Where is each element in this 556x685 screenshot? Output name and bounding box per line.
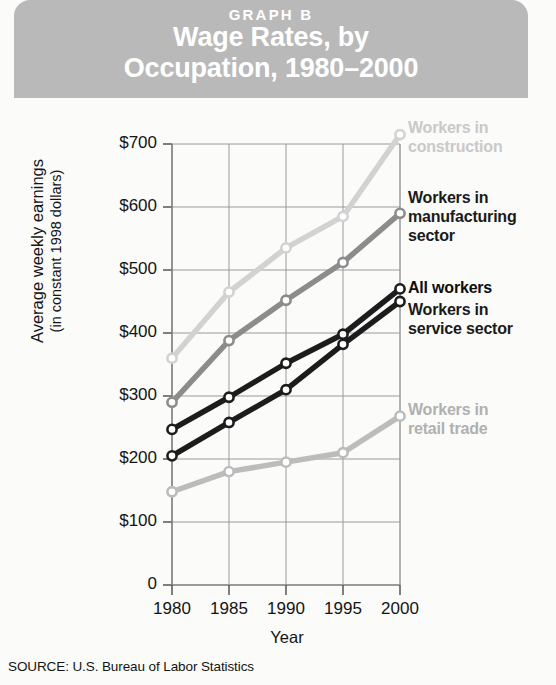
legend-item-service-sector: Workers in service sector <box>408 300 513 338</box>
legend-item-manufacturing: Workers in manufacturing sector <box>408 188 517 245</box>
data-point-marker <box>167 398 176 407</box>
legend-construction-line2: construction <box>408 138 503 155</box>
x-axis-tick-label: 1990 <box>254 599 318 619</box>
y-axis-title-line2: (in constant 1998 dollars) <box>47 86 66 416</box>
legend-retail-line2: retail trade <box>408 420 487 437</box>
y-axis-tick-label: $700 <box>75 133 157 153</box>
x-axis-tick-label: 2000 <box>368 599 432 619</box>
legend-item-retail-trade: Workers in retail trade <box>408 400 488 438</box>
legend-retail-line1: Workers in <box>408 401 488 418</box>
y-axis-tick-label: $400 <box>75 322 157 342</box>
graph-label: GRAPH B <box>14 6 528 23</box>
data-point-marker <box>224 418 233 427</box>
data-point-marker <box>395 209 404 218</box>
y-axis-tick-label: $600 <box>75 196 157 216</box>
x-axis-title: Year <box>172 628 402 647</box>
data-point-marker <box>281 458 290 467</box>
data-point-marker <box>338 330 347 339</box>
y-axis-tick-label: $200 <box>75 448 157 468</box>
source-note: SOURCE: U.S. Bureau of Labor Statistics <box>8 659 254 674</box>
y-axis-title: Average weekly earnings (in constant 199… <box>28 86 66 416</box>
legend-service-line2: service sector <box>408 320 513 337</box>
x-axis-tick-label: 1980 <box>140 599 204 619</box>
data-point-marker <box>338 448 347 457</box>
data-point-marker <box>167 425 176 434</box>
x-axis-tick-label: 1985 <box>197 599 261 619</box>
data-point-marker <box>281 296 290 305</box>
legend-construction-line1: Workers in <box>408 119 488 136</box>
y-axis-tick-label: $500 <box>75 259 157 279</box>
chart-header-band: GRAPH B Wage Rates, by Occupation, 1980–… <box>14 0 528 98</box>
data-point-marker <box>224 287 233 296</box>
data-point-marker <box>338 212 347 221</box>
data-point-marker <box>395 284 404 293</box>
data-point-marker <box>281 385 290 394</box>
data-point-marker <box>281 243 290 252</box>
data-point-marker <box>224 467 233 476</box>
y-axis-tick-label: $100 <box>75 511 157 531</box>
x-axis-tick-label: 1995 <box>311 599 375 619</box>
y-axis-tick-label: 0 <box>75 574 157 594</box>
y-axis-tick-label: $300 <box>75 385 157 405</box>
legend-manufacturing-line3: sector <box>408 227 455 244</box>
data-point-marker <box>395 130 404 139</box>
data-point-marker <box>167 354 176 363</box>
data-point-marker <box>281 359 290 368</box>
chart-title-line2: Occupation, 1980–2000 <box>124 53 418 83</box>
legend-service-line1: Workers in <box>408 301 488 318</box>
data-point-marker <box>167 451 176 460</box>
chart-title: Wage Rates, by Occupation, 1980–2000 <box>14 22 528 84</box>
legend-item-all-workers: All workers <box>408 278 492 297</box>
legend-manufacturing-line1: Workers in <box>408 189 488 206</box>
data-point-marker <box>224 393 233 402</box>
data-point-marker <box>338 340 347 349</box>
chart-title-line1: Wage Rates, by <box>173 22 369 52</box>
data-point-marker <box>395 412 404 421</box>
legend-manufacturing-line2: manufacturing <box>408 208 517 225</box>
data-point-marker <box>338 258 347 267</box>
legend-item-construction: Workers in construction <box>408 118 503 156</box>
data-point-marker <box>167 487 176 496</box>
y-axis-title-line1: Average weekly earnings <box>28 159 46 343</box>
data-point-marker <box>395 297 404 306</box>
data-point-marker <box>224 336 233 345</box>
